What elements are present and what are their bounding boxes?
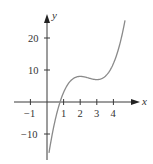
- x-tick-label-neg1: −1: [24, 108, 35, 119]
- x-tick-label-3: 3: [94, 108, 99, 119]
- function-curve: [49, 20, 125, 152]
- y-tick-label-neg10: −10: [21, 129, 37, 140]
- y-axis-label: y: [51, 9, 57, 21]
- x-tick-label-4: 4: [111, 108, 117, 119]
- y-tick-label-10: 10: [28, 65, 39, 76]
- x-axis-label: x: [141, 95, 147, 107]
- y-axis-arrow-icon: [44, 14, 50, 23]
- y-tick-label-20: 20: [28, 33, 39, 44]
- function-graph: x y −1 1 2 3 4 20 10 −10: [0, 0, 153, 164]
- x-axis-arrow-icon: [131, 99, 140, 105]
- x-tick-label-1: 1: [61, 108, 66, 119]
- x-tick-label-2: 2: [78, 108, 83, 119]
